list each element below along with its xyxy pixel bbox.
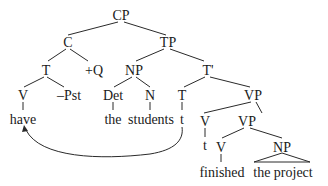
word-finished: finished [199,165,244,180]
node-c-t: T [42,63,51,78]
word-have: have [10,112,36,127]
movement-arrow [22,125,182,157]
node-vp2-v: V [216,140,226,155]
word-students: students [128,112,174,127]
node-cp: CP [112,8,129,23]
word-the: the [104,112,121,127]
node-np-subject: NP [125,63,143,78]
node-pst: –Pst [56,88,81,103]
node-c: C [63,35,72,50]
node-t-bar: T' [202,63,213,78]
node-np-object: NP [273,140,291,155]
node-vp1: VP [244,88,262,103]
node-q: +Q [85,63,103,78]
node-n: N [145,88,155,103]
node-tp: TP [160,35,177,50]
node-vp1-v: V [200,114,210,129]
node-det: Det [103,88,123,103]
node-t-head: T [178,88,187,103]
phrase-the-project: the project [253,165,313,180]
node-vp2: VP [238,114,256,129]
trace-t: t [180,112,184,127]
node-c-v: V [18,88,28,103]
syntax-tree: CP C TP T +Q NP T' V –Pst Det N T VP hav… [0,0,328,186]
trace-v: t [203,138,207,153]
